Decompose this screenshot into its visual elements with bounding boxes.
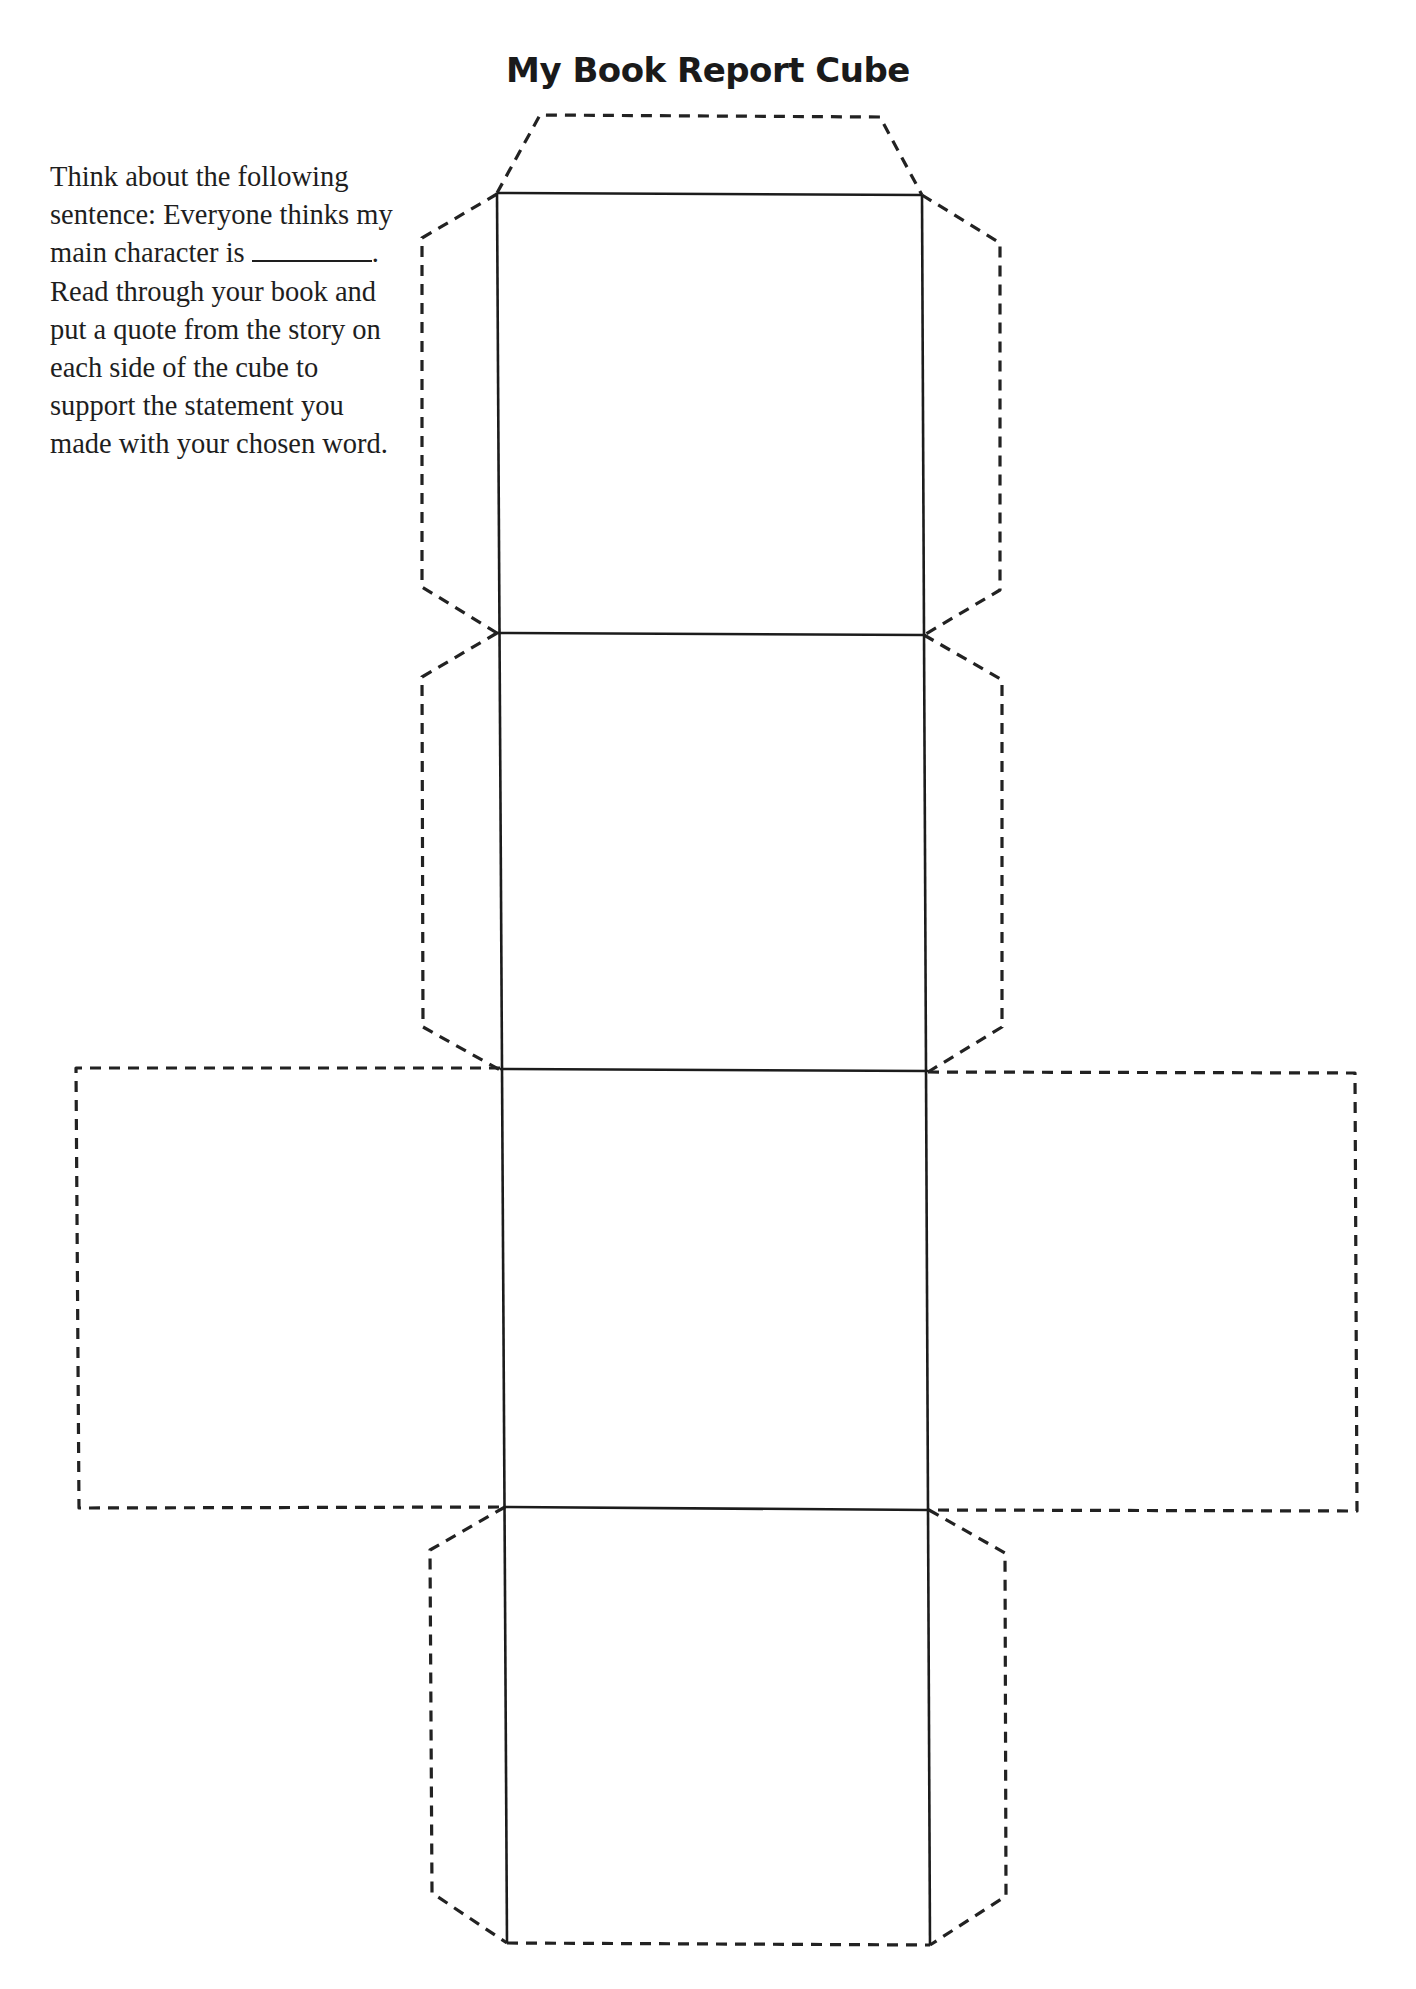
face-2-left-flap	[422, 633, 500, 1070]
right-wing-outline	[928, 1072, 1357, 1511]
face-3-4-divider	[505, 1507, 929, 1510]
face-2-right-flap	[924, 635, 1002, 1072]
face-1-top-edge	[497, 193, 922, 195]
cube-net-diagram	[0, 0, 1416, 1989]
face-1-2-divider	[497, 633, 924, 635]
face-1-left-flap	[422, 194, 497, 633]
fold-lines	[497, 193, 930, 1945]
face-4-left-flap	[430, 1507, 507, 1943]
face-1-right-flap	[922, 195, 1000, 635]
left-wing-outline	[76, 1068, 505, 1508]
cut-lines	[76, 115, 1357, 1945]
bottom-edge	[507, 1943, 930, 1945]
face-4-right-flap	[929, 1510, 1006, 1945]
top-flap	[497, 115, 922, 195]
face-2-3-divider	[500, 1069, 928, 1071]
